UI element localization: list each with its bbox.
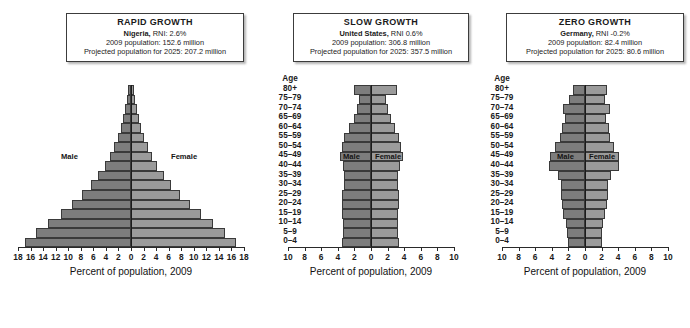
center-axis-line xyxy=(131,85,132,247)
x-axis-title: Percent of population, 2009 xyxy=(475,266,690,277)
bar-male xyxy=(573,85,585,95)
bar-female xyxy=(585,142,614,152)
male-label: Male xyxy=(61,152,78,161)
bar-male xyxy=(344,133,371,143)
bar-male xyxy=(110,152,131,162)
bar-male xyxy=(98,171,131,181)
x-axis-tick xyxy=(231,247,232,251)
title-box-slow-growth: SLOW GROWTH United States, RNI 0.6% 2009… xyxy=(293,13,469,62)
x-axis-tick xyxy=(169,247,170,251)
panel-zero-growth: ZERO GROWTH Germany, RNI -0.2% 2009 popu… xyxy=(480,0,690,328)
bar-male xyxy=(61,209,131,219)
x-axis-tick-label: 4 xyxy=(544,252,560,262)
x-axis-tick xyxy=(144,247,145,251)
x-axis-tick-label: 4 xyxy=(330,252,346,262)
x-axis-tick xyxy=(219,247,220,251)
bar-female xyxy=(371,85,397,95)
bar-female xyxy=(371,219,398,229)
x-axis-tick xyxy=(68,247,69,251)
x-axis-tick xyxy=(454,247,455,251)
x-axis-tick-label: 18 xyxy=(236,252,252,262)
bar-female xyxy=(131,180,171,190)
bar-female xyxy=(131,161,157,171)
bar-female xyxy=(371,171,398,181)
bar-male xyxy=(342,200,371,210)
x-axis-tick xyxy=(552,247,553,251)
panel-slow-growth: SLOW GROWTH United States, RNI 0.6% 2009… xyxy=(268,0,480,328)
x-axis-tick xyxy=(602,247,603,251)
x-axis-tick-label: 8 xyxy=(643,252,659,262)
x-axis-tick-label: 10 xyxy=(280,252,296,262)
x-axis-tick xyxy=(354,247,355,251)
x-axis-tick xyxy=(244,247,245,251)
x-axis-tick-label: 10 xyxy=(494,252,510,262)
bar-female xyxy=(585,114,606,124)
x-axis-tick-label: 2 xyxy=(560,252,576,262)
pyramid-plot-nigeria xyxy=(18,85,244,247)
x-axis-tick xyxy=(321,247,322,251)
bar-male xyxy=(114,142,131,152)
bar-male xyxy=(561,190,585,200)
x-axis-tick xyxy=(156,247,157,251)
x-axis-tick xyxy=(651,247,652,251)
population-line: 2009 population: 152.6 million xyxy=(73,38,237,47)
female-label: Female xyxy=(171,152,197,161)
rni-value: RNI: 2.6% xyxy=(153,29,187,38)
x-axis-tick-label: 6 xyxy=(627,252,643,262)
population-line: 2009 population: 306.8 million xyxy=(300,38,462,47)
bar-male xyxy=(354,85,371,95)
x-axis-tick-label: 10 xyxy=(660,252,676,262)
bar-male xyxy=(563,209,585,219)
country-rni-line: United States, RNI 0.6% xyxy=(300,29,462,38)
bar-female xyxy=(131,123,141,133)
bar-male xyxy=(343,219,371,229)
bar-female xyxy=(585,171,611,181)
x-axis-tick xyxy=(421,247,422,251)
x-axis-tick xyxy=(118,247,119,251)
bar-male xyxy=(566,219,585,229)
x-axis-tick xyxy=(56,247,57,251)
x-axis-tick-label: 2 xyxy=(380,252,396,262)
bar-male xyxy=(121,123,131,133)
panel-rapid-growth: RAPID GROWTH Nigeria, RNI: 2.6% 2009 pop… xyxy=(0,0,268,328)
bar-male xyxy=(342,209,371,219)
bar-male xyxy=(343,161,371,171)
x-axis-title: Percent of population, 2009 xyxy=(21,266,241,277)
country-name: Germany, xyxy=(560,29,594,38)
bar-female xyxy=(585,228,602,238)
bar-male xyxy=(562,200,585,210)
bar-female xyxy=(131,114,139,124)
x-axis-tick-label: 6 xyxy=(313,252,329,262)
bar-male xyxy=(342,190,371,200)
x-axis-tick xyxy=(502,247,503,251)
title-box-zero-growth: ZERO GROWTH Germany, RNI -0.2% 2009 popu… xyxy=(506,13,684,62)
bar-female xyxy=(371,133,399,143)
bar-male xyxy=(82,190,131,200)
x-axis-tick xyxy=(18,247,19,251)
bar-male xyxy=(342,238,371,248)
x-axis-tick xyxy=(404,247,405,251)
bar-male xyxy=(344,180,371,190)
bar-male xyxy=(567,228,585,238)
bar-male xyxy=(105,161,131,171)
bar-male xyxy=(48,219,131,229)
growth-type-title: SLOW GROWTH xyxy=(300,17,462,28)
x-axis-title: Percent of population, 2009 xyxy=(261,266,481,277)
bar-male xyxy=(36,228,131,238)
bar-male xyxy=(569,95,585,105)
pyramid-plot-germany xyxy=(502,85,668,247)
bar-male xyxy=(560,133,585,143)
x-axis-tick-label: 10 xyxy=(446,252,462,262)
bar-female xyxy=(131,238,236,248)
country-name: Nigeria, xyxy=(124,29,151,38)
bar-female xyxy=(371,209,398,219)
x-axis-tick xyxy=(618,247,619,251)
bar-female xyxy=(371,123,395,133)
x-axis-tick-label: 0 xyxy=(363,252,379,262)
bar-male xyxy=(118,133,131,143)
bar-female xyxy=(131,219,213,229)
title-box-rapid-growth: RAPID GROWTH Nigeria, RNI: 2.6% 2009 pop… xyxy=(66,13,244,62)
x-axis-tick xyxy=(43,247,44,251)
x-axis-tick xyxy=(585,247,586,251)
pyramid-plot-united-states xyxy=(288,85,454,247)
